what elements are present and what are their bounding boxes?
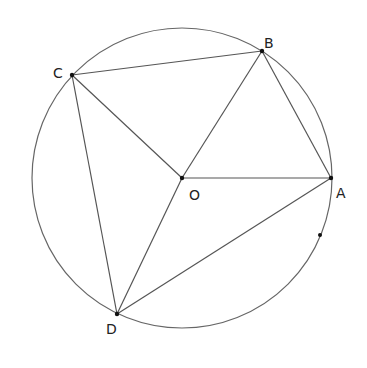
- segment-CB: [72, 51, 262, 75]
- point-A: [329, 176, 333, 180]
- point-C: [70, 73, 74, 77]
- label-A: A: [336, 185, 346, 201]
- segment-OB: [182, 51, 262, 178]
- label-D: D: [106, 321, 117, 337]
- geometry-diagram: O A B C D: [0, 0, 367, 368]
- label-C: C: [53, 65, 63, 81]
- label-O: O: [189, 187, 200, 203]
- point-unlabeled-arc: [318, 233, 322, 237]
- point-D: [115, 312, 119, 316]
- point-O: [180, 176, 184, 180]
- segment-BA: [262, 51, 331, 178]
- label-B: B: [264, 35, 274, 51]
